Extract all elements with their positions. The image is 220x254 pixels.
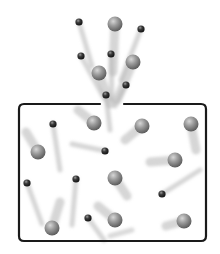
small-particle [75,18,82,25]
motion-trail [72,179,76,225]
small-particle [84,214,91,221]
motion-trail [162,170,200,194]
small-particle [101,147,108,154]
small-particle [23,179,30,186]
large-particle [92,66,107,81]
motion-trail [111,54,112,100]
small-particle [137,25,144,32]
large-particle [168,153,183,168]
large-particle [45,221,60,236]
motion-trail [27,183,42,224]
motion-trail [72,144,105,151]
small-particle [102,91,109,98]
large-particle [108,17,123,32]
small-particle [158,190,165,197]
large-particle [31,145,46,160]
motion-trail [88,218,104,240]
large-particle [87,116,102,131]
motion-trail [110,230,132,236]
large-particle [135,119,150,134]
small-particle [77,52,84,59]
small-particle [49,120,56,127]
small-particle [107,50,114,57]
small-particle [122,81,129,88]
large-particle [108,213,123,228]
large-particle [108,171,123,186]
small-particle [72,175,79,182]
large-particle [184,117,199,132]
large-particle [126,55,141,70]
large-particle [177,214,192,229]
effusion-diagram [0,0,220,254]
motion-trail [53,124,60,170]
